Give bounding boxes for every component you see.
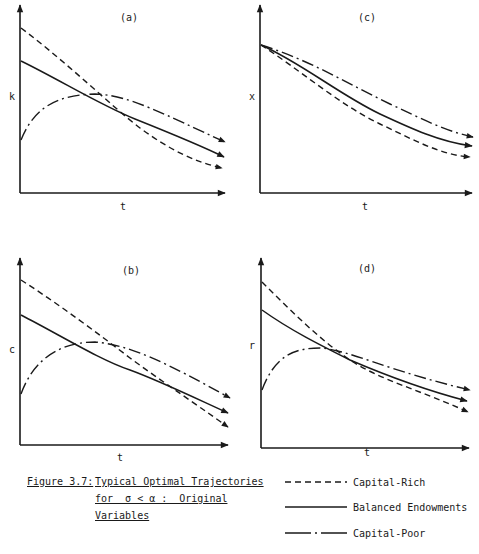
panel-b: (b) c t xyxy=(9,258,230,463)
y-axis-label: c xyxy=(9,344,15,355)
caption-line-1: Typical Optimal Trajectories xyxy=(95,473,264,490)
panel-d: (d) r t xyxy=(249,258,470,458)
x-axis-label: t xyxy=(364,447,370,458)
x-axis-label: t xyxy=(120,201,126,212)
panel-title: (b) xyxy=(122,265,140,276)
panel-title: (c) xyxy=(358,12,376,23)
x-axis-label: t xyxy=(362,201,368,212)
figure-caption-label: Figure 3.7: xyxy=(27,473,93,490)
caption-line-2: for σ < α : Original xyxy=(95,490,264,507)
series-capital-poor xyxy=(261,45,473,137)
panel-c: (c) x t xyxy=(249,5,473,212)
legend-item-capital-poor: Capital-Poor xyxy=(285,526,425,540)
series-capital-poor xyxy=(21,94,225,142)
y-axis-label: r xyxy=(249,340,255,351)
x-axis-label: t xyxy=(117,452,123,463)
legend-item-capital-rich: Capital-Rich xyxy=(285,475,425,489)
panel-title: (a) xyxy=(120,12,138,23)
dash-dot-line-swatch xyxy=(285,530,347,536)
solid-line-swatch xyxy=(285,504,347,510)
caption-line-3: Variables xyxy=(95,507,264,524)
panel-title: (d) xyxy=(358,263,376,274)
series-balanced xyxy=(262,310,467,401)
series-balanced xyxy=(21,315,228,413)
legend-label: Capital-Rich xyxy=(353,477,425,488)
series-capital-poor xyxy=(21,342,230,398)
series-capital-poor xyxy=(262,348,470,390)
dashed-line-swatch xyxy=(285,479,347,485)
y-axis-label: x xyxy=(249,91,255,102)
caption-label: Figure 3.7: xyxy=(27,476,93,487)
legend-item-balanced: Balanced Endowments xyxy=(285,500,467,514)
panel-a: (a) k t xyxy=(9,5,225,212)
series-balanced xyxy=(261,45,472,146)
legend-label: Balanced Endowments xyxy=(353,502,467,513)
legend-label: Capital-Poor xyxy=(353,528,425,539)
figure-caption: Typical Optimal Trajectories for σ < α :… xyxy=(95,473,264,524)
series-balanced xyxy=(21,61,224,157)
figure-canvas: (a) k t (c) x t (b) c t (d) r t xyxy=(0,0,479,554)
y-axis-label: k xyxy=(9,91,15,102)
